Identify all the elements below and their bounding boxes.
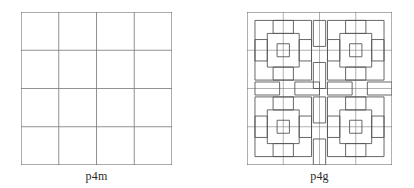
p4m-caption: p4m bbox=[21, 170, 172, 182]
p4g-tiling-diagram bbox=[247, 12, 392, 165]
figure-p4m bbox=[21, 12, 172, 165]
p4m-tiling-diagram bbox=[21, 12, 172, 165]
p4g-caption: p4g bbox=[247, 170, 392, 182]
figure-p4g bbox=[247, 12, 392, 165]
